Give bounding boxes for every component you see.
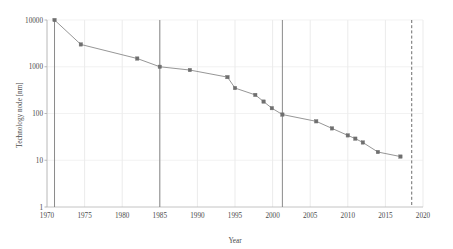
x-tick-label-2010: 2010 — [341, 212, 356, 220]
y-tick-label-10: 10 — [36, 157, 44, 165]
data-point-marker — [376, 150, 379, 153]
chart-root: 1970197519801985199019952000200520102015… — [0, 0, 453, 249]
x-tick-label-1980: 1980 — [115, 212, 130, 220]
data-point-marker — [158, 65, 161, 68]
data-point-marker — [254, 93, 257, 96]
y-axis-title: Technology node [nm] — [16, 82, 24, 147]
x-tick-label-1985: 1985 — [153, 212, 168, 220]
x-tick-label-2000: 2000 — [265, 212, 280, 220]
data-point-marker — [281, 113, 284, 116]
data-point-marker — [361, 141, 364, 144]
data-point-marker — [354, 137, 357, 140]
x-tick-label-1970: 1970 — [40, 212, 55, 220]
data-point-marker — [53, 18, 56, 21]
data-point-marker — [262, 100, 265, 103]
data-point-marker — [315, 120, 318, 123]
x-tick-label-1995: 1995 — [228, 212, 243, 220]
y-tick-label-10000: 10000 — [25, 17, 43, 25]
x-tick-label-1990: 1990 — [190, 212, 205, 220]
y-tick-label-1: 1 — [39, 204, 43, 212]
data-point-marker — [346, 134, 349, 137]
data-point-marker — [79, 43, 82, 46]
y-tick-label-100: 100 — [32, 110, 43, 118]
x-tick-label-2005: 2005 — [303, 212, 318, 220]
data-point-marker — [270, 106, 273, 109]
data-point-marker — [233, 86, 236, 89]
data-point-marker — [399, 155, 402, 158]
data-point-marker — [188, 68, 191, 71]
y-tick-label-1000: 1000 — [29, 63, 44, 71]
technology-node-line-chart: 1970197519801985199019952000200520102015… — [0, 0, 453, 249]
x-tick-label-1975: 1975 — [77, 212, 92, 220]
data-point-marker — [226, 75, 229, 78]
x-tick-label-2020: 2020 — [416, 212, 431, 220]
data-point-marker — [136, 57, 139, 60]
x-axis-title: Year — [228, 237, 242, 245]
x-tick-label-2015: 2015 — [378, 212, 393, 220]
data-point-marker — [330, 127, 333, 130]
